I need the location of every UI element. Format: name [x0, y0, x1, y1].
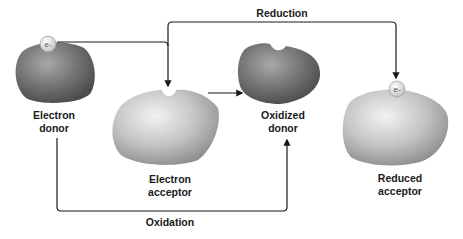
electron-acceptor-label-2: acceptor [148, 186, 192, 198]
svg-text:e-: e- [44, 40, 51, 49]
electron-icon: e- [389, 81, 405, 97]
oxidation-label: Oxidation [146, 216, 194, 228]
reduced-acceptor-shape [343, 90, 448, 166]
electron-donor-shape [16, 42, 95, 103]
electron-donor-label-2: donor [39, 122, 69, 134]
electron-acceptor-label-1: Electron [149, 173, 191, 185]
electron-donor-label-1: Electron [33, 109, 75, 121]
reduced-acceptor-label-1: Reduced [378, 172, 422, 184]
reduction-label: Reduction [256, 7, 307, 19]
oxidized-donor-label-1: Oxidized [261, 109, 305, 121]
oxidized-donor-label-2: donor [268, 122, 298, 134]
oxidized-donor-shape [238, 43, 320, 104]
electron-acceptor-shape [112, 90, 218, 165]
electron-icon: e- [40, 36, 56, 52]
svg-text:e-: e- [393, 85, 400, 94]
redox-diagram: e- Electron donor Electron acceptor Oxid… [0, 0, 463, 239]
reduced-acceptor-label-2: acceptor [378, 185, 422, 197]
